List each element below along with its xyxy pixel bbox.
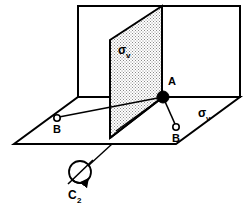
- atom-b-left: [54, 115, 60, 121]
- atom-b-right-label: B: [172, 132, 180, 144]
- atom-a: [157, 91, 169, 103]
- figure-container: A B B σ v σ v C 2: [0, 0, 250, 209]
- atom-a-label: A: [168, 75, 176, 87]
- atom-b-left-marker: [54, 115, 60, 121]
- c2-axis-subscript: 2: [77, 196, 82, 205]
- atom-b-right-marker: [173, 124, 179, 130]
- atom-a-marker: [157, 91, 169, 103]
- sigma-v-front-label: σ: [118, 43, 126, 57]
- c2-rotation-symbol: [68, 144, 112, 184]
- atom-b-left-label: B: [53, 123, 61, 135]
- sigma-v-right-subscript: v: [206, 114, 211, 123]
- c2-axis-label: C: [68, 188, 77, 202]
- sigma-v-right-label: σ: [198, 106, 206, 120]
- c2-leader-line: [88, 144, 112, 166]
- atom-b-right: [173, 124, 179, 130]
- c2v-symmetry-diagram: A B B σ v σ v C 2: [0, 0, 250, 209]
- sigma-v-front-subscript: v: [126, 51, 131, 60]
